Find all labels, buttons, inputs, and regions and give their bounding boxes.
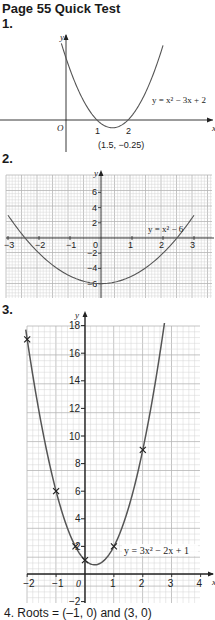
- x-tick-label: 2: [139, 578, 145, 589]
- y-axis-label: y: [74, 310, 79, 320]
- chart-2-quadratic: y−3−2−10123642−2−4−6y = x² − 6: [0, 165, 215, 300]
- y-tick-label: 18: [69, 320, 81, 331]
- y-axis-arrow-icon: [64, 34, 69, 40]
- y-tick-label: 12: [69, 403, 81, 414]
- x-tick-label: 1: [110, 578, 116, 589]
- y-axis-label: y: [93, 168, 98, 178]
- y-tick-label: 6: [92, 187, 97, 197]
- x-tick-label: 2: [126, 126, 131, 136]
- x-tick-label: −1: [52, 578, 64, 589]
- y-tick-label: 6: [75, 486, 81, 497]
- y-tick-label: 4: [75, 513, 81, 524]
- curve: [61, 43, 163, 127]
- y-axis-arrow-icon: [83, 311, 88, 317]
- x-tick-label: −1: [66, 240, 76, 250]
- y-tick-label: −2: [69, 596, 81, 605]
- vertex-annotation: (1.5, −0.25): [98, 140, 144, 150]
- x-axis-arrow-icon: [208, 572, 214, 577]
- x-axis-label: x: [211, 123, 215, 133]
- y-tick-label: 8: [75, 458, 81, 469]
- curve-label: y = x² − 3x + 2: [152, 95, 206, 105]
- y-tick-label: 14: [69, 375, 81, 386]
- x-axis-label: x: [211, 577, 215, 587]
- curve-label: y = 3x² − 2x + 1: [124, 545, 189, 556]
- y-tick-label: −4: [87, 263, 97, 273]
- y-tick-label: 2: [92, 218, 97, 228]
- y-tick-label: 16: [69, 348, 81, 359]
- chart-1-quadratic: yxO12y = x² − 3x + 2(1.5, −0.25): [0, 22, 215, 157]
- y-tick-label: 10: [69, 431, 81, 442]
- x-tick-label: −2: [23, 578, 35, 589]
- y-axis-arrow-icon: [99, 170, 104, 176]
- y-axis-label: y: [59, 32, 64, 42]
- answer-4-text: 4. Roots = (–1, 0) and (3, 0): [4, 606, 152, 620]
- x-axis-arrow-icon: [207, 118, 213, 123]
- x-tick-label: 4: [197, 578, 203, 589]
- x-tick-label: 0: [76, 578, 81, 589]
- x-tick-label: 3: [168, 578, 174, 589]
- origin-label: O: [57, 123, 64, 133]
- y-tick-label: 4: [92, 203, 97, 213]
- page-title: Page 55 Quick Test: [2, 2, 120, 16]
- x-tick-label: 3: [190, 240, 195, 250]
- y-tick-label: −2: [87, 248, 97, 258]
- x-tick-label: 1: [95, 126, 100, 136]
- curve-label: y = x² − 6: [148, 224, 184, 234]
- x-tick-label: 1: [128, 240, 133, 250]
- x-tick-label: −3: [4, 240, 14, 250]
- chart-3-quadratic: yx−2−10123418161412108642−2y = 3x² − 2x …: [0, 305, 215, 605]
- x-tick-label: −2: [35, 240, 45, 250]
- x-tick-label: 2: [159, 240, 164, 250]
